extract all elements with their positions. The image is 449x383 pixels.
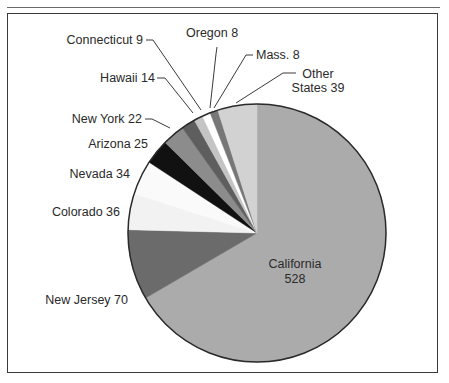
label-connecticut: Connecticut 9 [67, 33, 143, 47]
leader-new-york [145, 119, 170, 128]
label-new-jersey: New Jersey 70 [45, 293, 128, 307]
label-arizona: Arizona 25 [88, 137, 148, 151]
label-mass: Mass. 8 [256, 48, 300, 62]
label-california-value: 528 [285, 272, 306, 286]
label-hawaii: Hawaii 14 [100, 71, 155, 85]
leader-other-states [236, 73, 296, 103]
label-nevada: Nevada 34 [70, 167, 131, 181]
label-new-york: New York 22 [72, 112, 142, 126]
pie-chart: California 528 New Jersey 70 Colorado 36… [0, 0, 449, 383]
label-colorado: Colorado 36 [52, 205, 120, 219]
label-california: California [269, 257, 322, 271]
leader-hawaii [157, 78, 193, 113]
pie-slices [128, 104, 386, 362]
leader-oregon [210, 47, 217, 108]
label-other-states-line1: Other [302, 67, 333, 81]
leader-mass [214, 55, 253, 108]
label-oregon: Oregon 8 [186, 26, 238, 40]
label-other-states-line2: States 39 [292, 81, 345, 95]
